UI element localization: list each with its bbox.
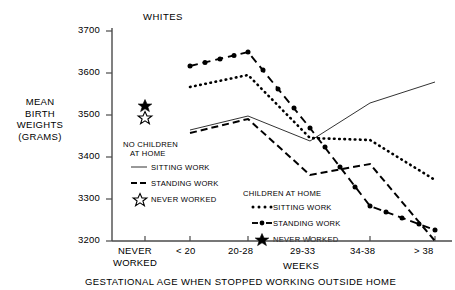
chart-figure: WHITES MEAN BIRTH WEIGHTS (GRAMS) 3700 3… [0, 0, 455, 290]
x-axis-ticks [145, 236, 435, 241]
legend-swatch-children-standing [252, 221, 272, 226]
legend-swatch-children-sitting [252, 206, 273, 209]
y-axis-ticks [106, 31, 112, 241]
series-markers-children-standing [188, 50, 438, 233]
marker-open-star-no-children-never-worked [138, 112, 152, 124]
legend-swatch-children-never-worked [255, 234, 269, 246]
series-line-children-sitting [190, 75, 435, 180]
chart-plot-area [0, 0, 455, 290]
legend-swatch-no-children-never-worked [133, 194, 147, 206]
marker-filled-star-children-never-worked [138, 100, 152, 112]
